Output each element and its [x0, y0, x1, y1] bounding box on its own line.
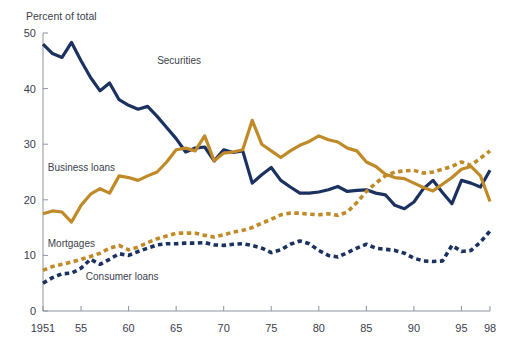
y-tick-label: 40 [24, 83, 36, 95]
x-tick-label: 98 [484, 322, 496, 334]
y-tick-label: 30 [24, 138, 36, 150]
series-label-securities: Securities [157, 55, 201, 66]
series-label-business-loans: Business loans [48, 162, 115, 173]
line-chart: 01020304050195155606570758085909598 Secu… [0, 0, 511, 355]
x-tick-label: 75 [265, 322, 277, 334]
series-label-consumer-loans: Consumer loans [86, 271, 159, 282]
x-tick-label: 80 [313, 322, 325, 334]
x-tick-label: 55 [75, 322, 87, 334]
x-tick-label: 70 [218, 322, 230, 334]
y-tick-label: 0 [30, 305, 36, 317]
y-tick-label: 20 [24, 194, 36, 206]
x-tick-label: 95 [455, 322, 467, 334]
y-axis-title: Percent of total [26, 10, 97, 22]
x-tick-label: 65 [170, 322, 182, 334]
x-tick-label: 90 [408, 322, 420, 334]
x-tick-label: 1951 [31, 322, 55, 334]
y-tick-label: 50 [24, 27, 36, 39]
series-label-mortgages: Mortgages [48, 238, 95, 249]
x-tick-label: 60 [122, 322, 134, 334]
x-tick-label: 85 [360, 322, 372, 334]
chart-container: 01020304050195155606570758085909598 Secu… [0, 0, 511, 355]
y-tick-label: 10 [24, 249, 36, 261]
